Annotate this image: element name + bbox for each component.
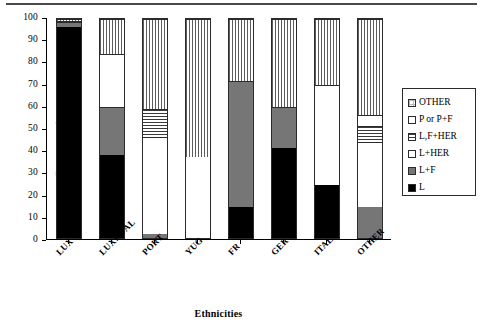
y-tick-label: 100	[14, 13, 38, 23]
legend-swatch-icon	[408, 133, 416, 141]
legend-item[interactable]: OTHER	[408, 94, 475, 111]
legend-item[interactable]: P or P+F	[408, 111, 475, 128]
x-axis-title: Ethnicities	[46, 308, 391, 319]
bar-segment	[57, 22, 81, 26]
bar-slot	[263, 18, 306, 239]
y-tick-mark	[42, 40, 46, 41]
y-tick-mark	[42, 18, 46, 19]
page-top-rule	[6, 3, 477, 5]
legend-swatch-icon	[408, 99, 416, 107]
x-axis-line	[46, 239, 391, 240]
bar-slot	[306, 18, 349, 239]
bar-slot	[176, 18, 219, 239]
y-tick-mark	[42, 85, 46, 86]
legend-item[interactable]: L+F	[408, 162, 475, 179]
bar-segment	[100, 19, 124, 54]
y-tick-mark	[42, 240, 46, 241]
stacked-bar[interactable]	[357, 18, 383, 239]
legend-label: L	[419, 183, 425, 193]
bar-segment	[186, 157, 210, 238]
bar-segment	[100, 54, 124, 107]
legend-swatch-icon	[408, 150, 416, 158]
y-tick-mark	[42, 62, 46, 63]
bar-slot	[349, 18, 392, 239]
bar-segment	[315, 85, 339, 186]
y-tick-label: 60	[14, 102, 38, 112]
bar-segment	[272, 107, 296, 149]
legend-swatch-icon	[408, 167, 416, 175]
bar-slot	[90, 18, 133, 239]
y-tick-mark	[42, 107, 46, 108]
y-tick-mark	[42, 173, 46, 174]
y-tick-label: 40	[14, 146, 38, 156]
bar-segment	[272, 148, 296, 238]
y-tick-label: 0	[14, 235, 38, 245]
bar-segment	[100, 107, 124, 155]
bar-segment	[143, 109, 167, 137]
y-tick-label: 50	[14, 124, 38, 134]
bar-slot	[220, 18, 263, 239]
bar-segment	[229, 19, 253, 81]
bar-segment	[57, 27, 81, 238]
legend-box: OTHERP or P+FL,F+HERL+HERL+FL	[402, 88, 476, 196]
y-tick-mark	[42, 196, 46, 197]
legend-item[interactable]: L+HER	[408, 145, 475, 162]
bar-segment	[358, 19, 382, 115]
bar-segment	[57, 21, 81, 22]
y-tick-mark	[42, 129, 46, 130]
bar-group	[47, 18, 391, 239]
bar-segment	[358, 142, 382, 208]
figure-canvas: Percentage frequency 0102030405060708090…	[0, 0, 483, 333]
bar-segment	[143, 137, 167, 233]
legend-label: L+F	[419, 166, 435, 176]
y-tick-mark	[42, 218, 46, 219]
y-tick-label: 20	[14, 191, 38, 201]
legend-label: L+HER	[419, 149, 449, 159]
legend-item[interactable]: L	[408, 179, 475, 196]
bar-slot	[133, 18, 176, 239]
x-tick-mark	[240, 240, 241, 244]
y-tick-label: 10	[14, 213, 38, 223]
y-tick-mark	[42, 151, 46, 152]
bar-segment	[186, 19, 210, 157]
bar-segment	[315, 185, 339, 238]
bar-segment	[229, 81, 253, 207]
bar-segment	[358, 126, 382, 141]
stacked-bar[interactable]	[56, 18, 82, 239]
plot-area: 0102030405060708090100	[46, 18, 391, 240]
stacked-bar[interactable]	[228, 18, 254, 239]
bar-segment	[315, 19, 339, 85]
legend-swatch-icon	[408, 116, 416, 124]
y-tick-label: 30	[14, 168, 38, 178]
stacked-bar[interactable]	[314, 18, 340, 239]
y-tick-label: 80	[14, 57, 38, 67]
stacked-bar[interactable]	[271, 18, 297, 239]
bar-segment	[358, 115, 382, 126]
y-tick-label: 70	[14, 80, 38, 90]
legend-label: P or P+F	[419, 115, 453, 125]
stacked-bar[interactable]	[185, 18, 211, 239]
bar-segment	[143, 19, 167, 109]
legend-label: L,F+HER	[419, 132, 457, 142]
bar-segment	[229, 207, 253, 238]
legend-item[interactable]: L,F+HER	[408, 128, 475, 145]
bar-segment	[272, 19, 296, 107]
stacked-bar[interactable]	[99, 18, 125, 239]
y-tick-label: 90	[14, 35, 38, 45]
stacked-bar[interactable]	[142, 18, 168, 239]
bar-segment	[57, 19, 81, 21]
legend-label: OTHER	[419, 98, 451, 108]
legend-swatch-icon	[408, 184, 416, 192]
bar-slot	[47, 18, 90, 239]
